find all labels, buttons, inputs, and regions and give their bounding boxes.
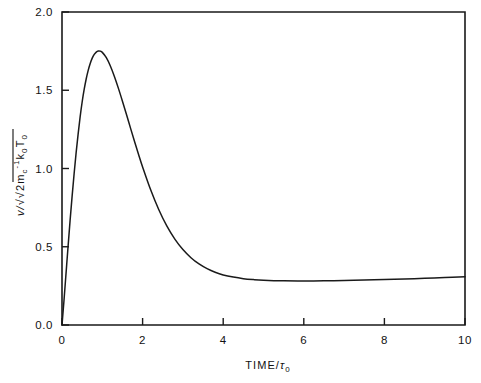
x-tick-label-8: 8	[381, 334, 388, 346]
x-tick-label-2: 2	[139, 334, 146, 346]
x-tick-label-4: 4	[220, 334, 227, 346]
y-axis-title: v/√√2mc-1k0T0	[12, 134, 29, 216]
y-axis-title-T-sub: 0	[20, 134, 29, 140]
plot-frame	[62, 12, 465, 325]
x-tick-label-6: 6	[300, 334, 307, 346]
x-tick-label-10: 10	[458, 334, 472, 346]
y-tick-label-1.5: 1.5	[35, 84, 53, 96]
y-tick-label-2: 2.0	[35, 6, 53, 18]
y-axis-title-group: v/√√2mc-1k0T0	[12, 129, 29, 216]
y-axis-title-m-sub: c	[20, 168, 29, 173]
y-axis-title-2m: 2m	[14, 174, 26, 191]
y-axis-title-v: v/	[14, 205, 26, 216]
y-axis-title-radical: √	[14, 198, 26, 205]
x-axis-title: TIME/τ0	[245, 359, 291, 374]
y-axis-title-T: T	[14, 140, 26, 148]
y-axis-title-radicand-open: √	[14, 191, 26, 198]
y-tick-label-0.5: 0.5	[35, 241, 53, 253]
velocity-response-chart: 0246810 0.00.51.01.52.0 TIME/τ0 v/√√2mc-…	[0, 0, 481, 383]
x-axis-title-main: TIME/	[245, 359, 280, 371]
x-axis-ticks	[62, 318, 465, 325]
x-tick-label-0: 0	[59, 334, 66, 346]
y-tick-label-1: 1.0	[35, 163, 53, 175]
data-series-line	[62, 51, 465, 325]
x-axis-title-tau-sub: 0	[285, 365, 291, 374]
x-axis-tick-labels: 0246810	[59, 334, 473, 346]
figure-container: 0246810 0.00.51.01.52.0 TIME/τ0 v/√√2mc-…	[0, 0, 481, 383]
y-tick-label-0: 0.0	[35, 319, 53, 331]
y-axis-tick-labels: 0.00.51.01.52.0	[35, 6, 53, 331]
